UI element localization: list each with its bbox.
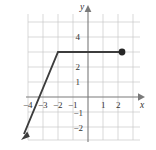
x-axis-label: x bbox=[139, 100, 145, 110]
x-tick-label-minus2: −2 bbox=[53, 100, 63, 110]
x-tick-label-2: 2 bbox=[116, 100, 121, 110]
closed-endpoint-dot bbox=[119, 49, 126, 56]
y-axis-arrowhead-icon bbox=[85, 5, 92, 12]
x-tick-label-minus3: −3 bbox=[38, 100, 48, 110]
x-tick-label-minus4: −4 bbox=[23, 100, 33, 110]
y-tick-label-minus2: −2 bbox=[73, 123, 83, 133]
y-tick-label-2: 2 bbox=[76, 62, 81, 72]
coordinate-plane-svg: x y −4 −3 −2 −1 1 2 4 2 1 −1 −2 bbox=[0, 0, 156, 150]
grid-lines bbox=[28, 14, 140, 140]
y-tick-label-minus1: −1 bbox=[73, 108, 83, 118]
y-tick-label-4: 4 bbox=[76, 32, 81, 42]
y-axis-label: y bbox=[79, 2, 85, 12]
graph-figure: x y −4 −3 −2 −1 1 2 4 2 1 −1 −2 bbox=[0, 0, 156, 150]
axis-name-labels: x y bbox=[79, 2, 145, 110]
x-tick-label-1: 1 bbox=[101, 100, 106, 110]
y-tick-label-1: 1 bbox=[76, 77, 81, 87]
y-tick-labels: 4 2 1 −1 −2 bbox=[73, 32, 83, 133]
axes-group bbox=[26, 5, 145, 142]
